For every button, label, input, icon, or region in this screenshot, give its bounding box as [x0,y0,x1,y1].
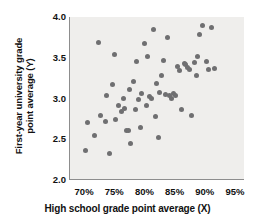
data-point [187,67,192,72]
data-point [139,91,144,96]
data-point [145,54,150,59]
data-point [194,73,199,78]
data-point [206,67,211,72]
data-point [104,93,109,98]
data-point [212,66,217,71]
data-point [156,135,161,140]
data-point [131,79,136,84]
data-point [161,58,166,63]
y-axis-title-line-2: point average (Y) [24,58,36,133]
y-tick-label: 3.0 [42,94,66,104]
data-point [157,90,162,95]
data-point [121,96,126,101]
data-point [173,93,178,98]
data-point [110,82,115,87]
data-point [136,97,141,102]
data-point [126,128,131,133]
data-point [154,81,159,86]
data-point [122,106,127,111]
data-point [159,73,164,78]
data-point [165,35,170,40]
data-point [107,151,112,156]
y-axis-title-line-1: First-year university grade [13,38,25,155]
data-point [144,103,149,108]
data-point [103,119,108,124]
y-tick-label: 2.5 [42,134,66,144]
data-point [83,148,88,153]
data-point [142,41,147,46]
data-point [189,113,194,118]
data-point [151,27,156,32]
data-point [92,133,97,138]
data-point [96,40,101,45]
data-point [133,107,138,112]
data-point [192,60,197,65]
data-point [153,114,158,119]
data-point [116,103,121,108]
y-tick-label: 4.0 [42,12,66,22]
data-point [113,117,118,122]
data-point [134,59,139,64]
y-tick-label: 2.0 [42,175,66,185]
x-axis-tick-labels: 70%75%80%85%90%95% [0,186,255,199]
data-point [177,68,182,73]
data-point [127,87,132,92]
plot-area [69,17,244,180]
y-axis-title: First-year university grade point averag… [8,16,40,176]
data-point [179,107,184,112]
y-tick-label: 3.5 [42,53,66,63]
data-point [138,125,143,130]
data-point [209,25,214,30]
x-tick-label: 95% [215,186,255,198]
data-point [112,52,117,57]
data-point [85,120,90,125]
data-point [200,23,205,28]
data-point [149,96,154,101]
data-point [128,141,133,146]
data-point [195,54,200,59]
scatter-plot-figure: First-year university grade point averag… [0,0,255,221]
data-point [197,32,202,37]
data-point [204,59,209,64]
data-point [98,113,103,118]
x-axis-title: High school grade point average (X) [0,203,255,214]
